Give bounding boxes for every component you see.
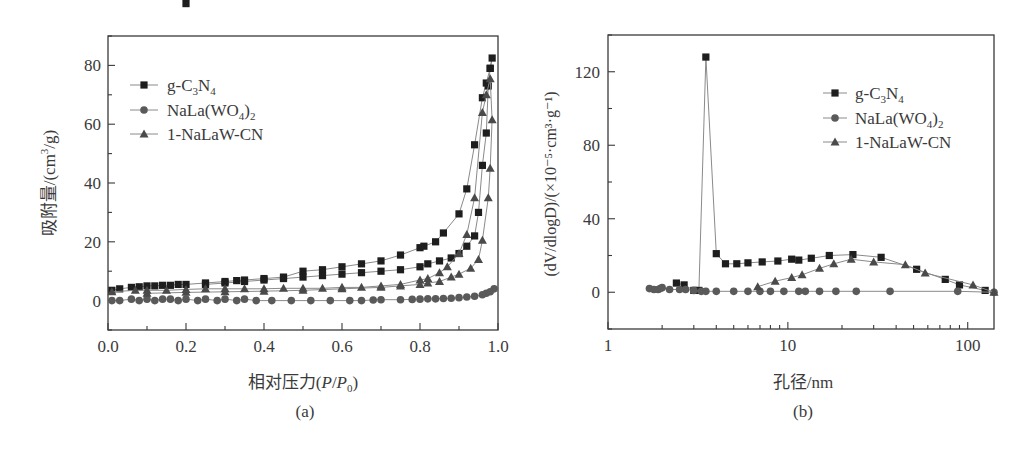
square-marker xyxy=(489,54,496,61)
square-marker xyxy=(826,252,833,259)
square-marker xyxy=(831,89,838,96)
circle-marker xyxy=(780,288,788,296)
y-tick-label: 60 xyxy=(84,115,101,134)
square-marker xyxy=(424,260,431,267)
circle-marker xyxy=(463,293,471,301)
circle-marker xyxy=(424,295,432,303)
circle-marker xyxy=(455,294,463,302)
legend-item: g-C3N4 xyxy=(130,76,216,97)
circle-marker xyxy=(408,296,416,304)
chart-panel-b: 11010004080120 g-C3N4NaLa(WO4)21-NaLaW-C… xyxy=(542,35,999,421)
square-marker xyxy=(479,162,486,169)
y-tick-label: 0 xyxy=(93,292,102,311)
square-marker xyxy=(260,276,267,283)
triangle-marker xyxy=(462,230,471,238)
square-marker xyxy=(471,232,478,239)
circle-marker xyxy=(194,297,202,305)
circle-marker xyxy=(816,288,824,296)
legend-item: NaLa(WO4)2 xyxy=(823,109,943,130)
square-marker xyxy=(233,277,240,284)
circle-marker xyxy=(346,297,354,305)
circle-marker xyxy=(327,297,335,305)
circle-marker xyxy=(221,295,229,303)
circle-marker xyxy=(369,296,377,304)
panel-caption-b: (b) xyxy=(793,402,813,421)
triangle-marker xyxy=(478,236,487,244)
data-series-b xyxy=(646,53,999,296)
circle-marker xyxy=(416,295,424,303)
triangle-marker xyxy=(455,270,464,278)
x-tick-label: 100 xyxy=(955,336,981,355)
square-marker xyxy=(377,257,384,264)
square-marker xyxy=(436,257,443,264)
square-marker xyxy=(733,260,740,267)
square-marker xyxy=(175,281,182,288)
circle-marker xyxy=(307,297,315,305)
circle-marker xyxy=(795,288,803,296)
y-axis-label-b: (dV/dlogD)/(×10⁻⁵·cm³·g⁻¹) xyxy=(542,91,560,276)
square-marker xyxy=(338,263,345,270)
y-axis-label-a: 吸附量/(cm3/g) xyxy=(38,130,59,237)
circle-marker xyxy=(702,288,710,296)
circle-marker xyxy=(213,297,221,305)
triangle-marker xyxy=(478,108,487,116)
circle-marker xyxy=(801,288,809,296)
circle-marker xyxy=(954,288,962,296)
data-series-a xyxy=(107,0,498,304)
x-axis-label-a: 相对压力(P/P0) xyxy=(248,373,358,394)
square-marker xyxy=(702,53,709,60)
triangle-marker xyxy=(753,282,762,290)
square-marker xyxy=(673,279,680,286)
circle-marker xyxy=(397,296,405,304)
square-marker xyxy=(483,129,490,136)
circle-marker xyxy=(767,288,775,296)
circle-marker xyxy=(490,285,498,293)
circle-marker xyxy=(128,295,136,303)
y-tick-label: 40 xyxy=(84,174,101,193)
circle-marker xyxy=(108,297,116,305)
axis-ticks-a: 0.00.20.40.60.81.0020406080 xyxy=(84,36,509,356)
legend-label: g-C3N4 xyxy=(855,84,904,105)
circle-marker xyxy=(358,297,366,305)
square-marker xyxy=(420,243,427,250)
legend-item: 1-NaLaW-CN xyxy=(823,133,951,152)
square-marker xyxy=(159,282,166,289)
circle-marker xyxy=(116,297,124,305)
circle-marker xyxy=(151,297,159,305)
circle-marker xyxy=(174,297,182,305)
square-marker xyxy=(774,257,781,264)
x-tick-label: 0.6 xyxy=(331,337,352,356)
x-tick-label: 0.4 xyxy=(253,337,275,356)
series-g-c3n4 xyxy=(108,0,495,294)
square-marker xyxy=(432,238,439,245)
circle-marker xyxy=(167,295,175,303)
legend-item: 1-NaLaW-CN xyxy=(130,125,263,144)
circle-marker xyxy=(140,106,148,114)
square-marker xyxy=(241,278,248,285)
x-tick-label: 0.2 xyxy=(175,337,196,356)
legend-label: g-C3N4 xyxy=(167,76,216,97)
circle-marker xyxy=(682,286,690,294)
axis-ticks-b: 11010004080120 xyxy=(575,35,981,355)
x-tick-label: 0.0 xyxy=(97,337,118,356)
square-marker xyxy=(440,229,447,236)
square-marker xyxy=(713,250,720,257)
square-marker xyxy=(808,255,815,262)
square-marker xyxy=(744,259,751,266)
square-marker xyxy=(338,271,345,278)
square-marker xyxy=(377,268,384,275)
triangle-marker xyxy=(447,273,456,281)
square-marker xyxy=(878,254,885,261)
circle-marker xyxy=(832,288,840,296)
legend-label: NaLa(WO4)2 xyxy=(855,109,943,130)
square-marker xyxy=(280,275,287,282)
circle-marker xyxy=(159,295,167,303)
y-tick-label: 0 xyxy=(592,283,601,302)
circle-marker xyxy=(666,286,674,294)
legend-item: g-C3N4 xyxy=(823,84,904,105)
panel-caption-a: (a) xyxy=(296,402,315,421)
triangle-marker xyxy=(486,164,495,172)
circle-marker xyxy=(182,295,190,303)
legend-item: NaLa(WO4)2 xyxy=(130,101,255,122)
legend-label: 1-NaLaW-CN xyxy=(167,125,263,144)
